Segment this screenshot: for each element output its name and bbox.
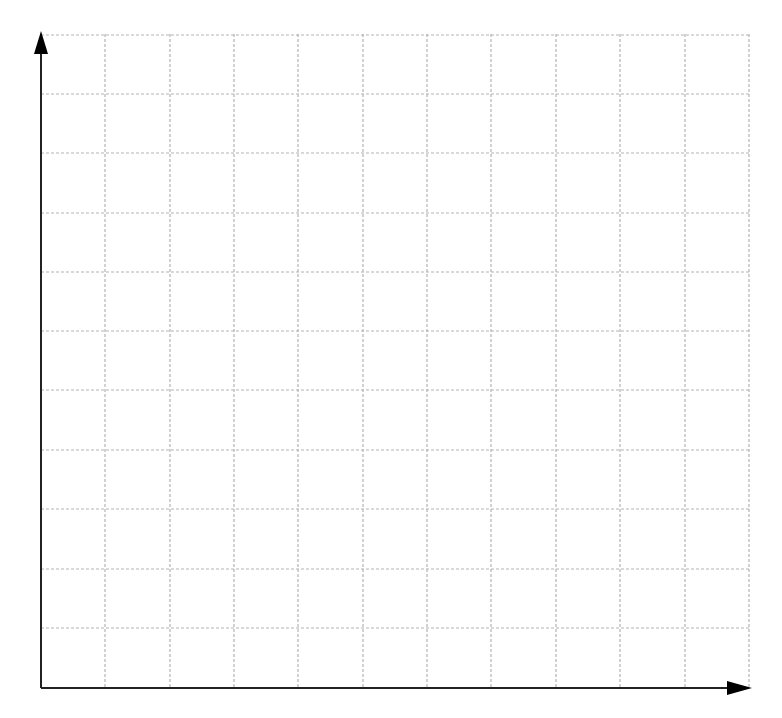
horizontal-gridlines [41, 35, 749, 628]
vertical-gridlines [105, 34, 749, 688]
coordinate-grid [0, 0, 782, 718]
y-axis-arrow-icon [34, 31, 48, 54]
x-axis-arrow-icon [727, 681, 752, 695]
